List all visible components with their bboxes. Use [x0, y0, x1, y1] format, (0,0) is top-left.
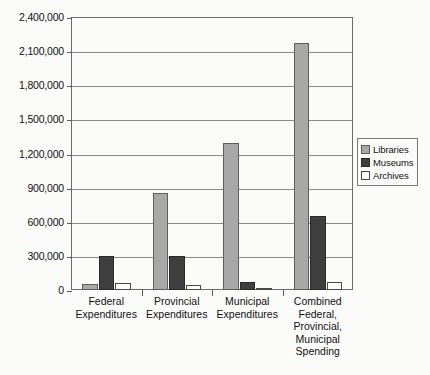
- bar-museums-2: [240, 282, 256, 290]
- bar-archives-2: [256, 288, 272, 290]
- legend-item-libraries: Libraries: [361, 143, 413, 155]
- legend-label-libraries: Libraries: [373, 144, 409, 155]
- y-axis-tick-label: 1,200,000: [0, 148, 64, 160]
- bar-libraries-2: [223, 143, 239, 290]
- bar-libraries-1: [153, 193, 169, 290]
- y-axis-tick-label: 300,000: [0, 250, 64, 262]
- bar-museums-3: [310, 216, 326, 290]
- bar-museums-0: [99, 256, 115, 290]
- bar-chart: 2,400,0002,100,0001,800,0001,500,0001,20…: [0, 0, 430, 375]
- legend-label-museums: Museums: [373, 157, 413, 168]
- y-axis-tick: [67, 291, 72, 292]
- bar-museums-1: [169, 256, 185, 290]
- y-axis-labels: 2,400,0002,100,0001,800,0001,500,0001,20…: [0, 0, 66, 375]
- legend-item-museums: Museums: [361, 156, 413, 168]
- y-axis-tick-label: 0: [0, 284, 64, 296]
- legend-label-archives: Archives: [373, 170, 409, 181]
- bar-archives-0: [115, 283, 131, 290]
- y-axis-tick-label: 2,100,000: [0, 45, 64, 57]
- chart-legend: Libraries Museums Archives: [357, 138, 418, 186]
- legend-swatch-archives-icon: [361, 171, 370, 180]
- y-axis-tick-label: 900,000: [0, 182, 64, 194]
- y-axis-tick-label: 1,500,000: [0, 113, 64, 125]
- bar-archives-3: [327, 282, 343, 290]
- y-axis-tick-label: 1,800,000: [0, 79, 64, 91]
- bar-archives-1: [186, 285, 202, 290]
- legend-item-archives: Archives: [361, 169, 413, 181]
- bar-libraries-0: [82, 284, 98, 290]
- bars-layer: [71, 17, 353, 290]
- category-axis-label: Combined Federal, Provincial, Municipal …: [277, 295, 360, 358]
- legend-swatch-museums-icon: [361, 158, 370, 167]
- y-axis-tick-label: 2,400,000: [0, 11, 64, 23]
- y-axis-tick-label: 600,000: [0, 216, 64, 228]
- legend-swatch-libraries-icon: [361, 145, 370, 154]
- bar-libraries-3: [294, 43, 310, 290]
